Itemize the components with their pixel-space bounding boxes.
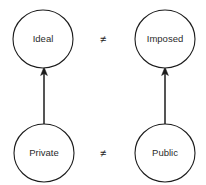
diagram-canvas: Ideal Imposed Private Public ≠ ≠ xyxy=(0,0,206,185)
node-imposed[interactable]: Imposed xyxy=(135,10,195,68)
node-ideal-label: Ideal xyxy=(33,33,54,44)
node-private-label: Private xyxy=(29,147,59,158)
node-private[interactable]: Private xyxy=(14,124,74,182)
node-public[interactable]: Public xyxy=(135,124,195,182)
node-ideal[interactable]: Ideal xyxy=(13,10,73,68)
node-public-label: Public xyxy=(152,147,178,158)
edge-public-to-imposed xyxy=(162,67,169,124)
diagram-svg: Ideal Imposed Private Public ≠ ≠ xyxy=(0,0,206,185)
not-equal-icon-bottom: ≠ xyxy=(100,147,106,159)
not-equal-icon-top: ≠ xyxy=(100,33,106,45)
node-imposed-label: Imposed xyxy=(147,33,183,44)
edge-private-to-ideal xyxy=(41,67,48,124)
